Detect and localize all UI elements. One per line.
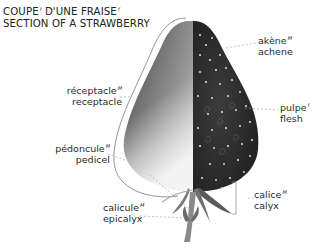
label-flesh: pulpef flesh — [280, 100, 309, 124]
strawberry-right-half — [193, 21, 258, 192]
label-achene: akèneM achene — [258, 33, 293, 57]
label-calyx: caliceM calyx — [254, 187, 287, 211]
diagram-title: COUPEf D'UNE FRAISEf SECTION OF A STRAWB… — [3, 3, 150, 30]
title-english: SECTION OF A STRAWBERRY — [3, 18, 150, 30]
label-epicalyx: caliculeM epicalyx — [103, 200, 144, 224]
title-french: COUPEf D'UNE FRAISEf — [3, 3, 150, 18]
label-receptacle: réceptacleM receptacle — [54, 83, 122, 107]
label-pedicel: pédonculeM pedicel — [48, 141, 110, 165]
